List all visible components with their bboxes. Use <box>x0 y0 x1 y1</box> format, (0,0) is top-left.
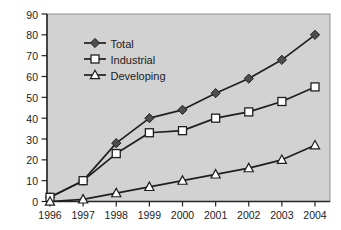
x-tick-label: 2000 <box>171 209 195 221</box>
marker-industrial <box>212 114 220 122</box>
y-tick-label: 20 <box>26 154 38 166</box>
line-chart: 0102030405060708090199619971998199920002… <box>0 0 341 230</box>
y-tick-label: 30 <box>26 134 38 146</box>
x-tick-label: 1996 <box>38 209 62 221</box>
legend-label-total: Total <box>111 38 134 50</box>
marker-industrial <box>179 127 187 135</box>
x-tick-label: 2002 <box>237 209 261 221</box>
y-tick-label: 10 <box>26 175 38 187</box>
marker-industrial <box>79 177 87 185</box>
y-tick-label: 40 <box>26 113 38 125</box>
y-tick-label: 90 <box>26 9 38 21</box>
marker-industrial <box>311 83 319 91</box>
x-tick-label: 1999 <box>138 209 162 221</box>
y-tick-label: 70 <box>26 50 38 62</box>
marker-industrial <box>112 150 120 158</box>
legend-label-industrial: Industrial <box>111 54 156 66</box>
x-tick-label: 2003 <box>270 209 294 221</box>
x-tick-label: 1998 <box>105 209 129 221</box>
chart-canvas: 0102030405060708090199619971998199920002… <box>0 0 341 230</box>
x-tick-label: 1997 <box>71 209 95 221</box>
legend-swatch-industrial <box>91 55 99 63</box>
x-tick-label: 2001 <box>204 209 228 221</box>
y-tick-label: 60 <box>26 71 38 83</box>
marker-industrial <box>278 98 286 106</box>
y-tick-label: 0 <box>32 196 38 208</box>
legend-label-developing: Developing <box>111 70 166 82</box>
y-tick-label: 50 <box>26 92 38 104</box>
marker-industrial <box>145 129 153 137</box>
marker-industrial <box>245 108 253 116</box>
y-tick-label: 80 <box>26 29 38 41</box>
x-tick-label: 2004 <box>303 209 327 221</box>
